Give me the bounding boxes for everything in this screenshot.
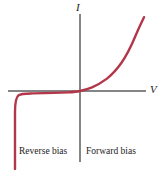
current-axis-label: I: [76, 2, 80, 13]
reverse-bias-label: Reverse bias: [19, 147, 67, 157]
voltage-axis-label: V: [150, 84, 157, 95]
forward-bias-label: Forward bias: [86, 147, 136, 157]
diode-iv-figure: I V Reverse bias Forward bias: [0, 0, 165, 170]
iv-plot-svg: [0, 0, 165, 170]
